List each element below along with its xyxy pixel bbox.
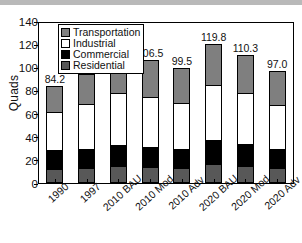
bar-segment-commercial[interactable] bbox=[79, 150, 94, 169]
bar-segment-commercial[interactable] bbox=[206, 141, 221, 165]
stacked-bar-chart: Quads 020406080100120140 84.294.0110.510… bbox=[0, 0, 302, 243]
x-label-slot: 1997 bbox=[70, 186, 102, 243]
bar-segment-transportation[interactable] bbox=[174, 69, 189, 103]
bar-value-label: 119.8 bbox=[201, 31, 227, 43]
stacked-bar[interactable]: 119.8 bbox=[205, 44, 222, 183]
bar-segment-commercial[interactable] bbox=[111, 146, 126, 167]
bar-segment-commercial[interactable] bbox=[270, 150, 285, 169]
bar-segment-commercial[interactable] bbox=[238, 145, 253, 167]
bar-slot: 97.0 bbox=[261, 23, 293, 183]
legend-swatch-icon bbox=[61, 50, 70, 59]
x-tick-mark bbox=[214, 179, 215, 183]
bar-segment-commercial[interactable] bbox=[143, 148, 158, 168]
bar-segment-industrial[interactable] bbox=[174, 103, 189, 150]
legend-label: Residential bbox=[73, 60, 125, 71]
chart-legend: TransportationIndustrialCommercialReside… bbox=[58, 24, 144, 74]
stacked-bar[interactable]: 97.0 bbox=[269, 71, 286, 183]
stacked-bar[interactable]: 106.5 bbox=[142, 60, 159, 183]
bar-segment-transportation[interactable] bbox=[238, 56, 253, 93]
bar-value-label: 84.2 bbox=[45, 73, 65, 85]
stacked-bar[interactable]: 99.5 bbox=[173, 68, 190, 183]
bar-segment-transportation[interactable] bbox=[79, 75, 94, 104]
x-tick-mark bbox=[87, 179, 88, 183]
bar-slot: 119.8 bbox=[198, 23, 230, 183]
bar-segment-industrial[interactable] bbox=[47, 112, 62, 151]
bar-slot: 110.3 bbox=[230, 23, 262, 183]
x-label-slot: 2010 BAU bbox=[102, 186, 134, 243]
x-tick-mark bbox=[182, 179, 183, 183]
bar-segment-industrial[interactable] bbox=[111, 93, 126, 146]
bar-segment-transportation[interactable] bbox=[270, 72, 285, 105]
legend-swatch-icon bbox=[61, 28, 70, 37]
x-label-slot: 2020 BAU bbox=[198, 186, 230, 243]
bar-segment-commercial[interactable] bbox=[47, 151, 62, 169]
bar-segment-transportation[interactable] bbox=[47, 87, 62, 112]
x-tick-mark bbox=[277, 179, 278, 183]
legend-swatch-icon bbox=[61, 61, 70, 70]
x-tick-mark bbox=[55, 179, 56, 183]
x-label-slot: 1990 bbox=[38, 186, 70, 243]
x-label-slot: 2010 Mod bbox=[134, 186, 166, 243]
x-tick-mark bbox=[150, 179, 151, 183]
top-border-band bbox=[0, 0, 302, 5]
bar-segment-industrial[interactable] bbox=[270, 105, 285, 151]
stacked-bar[interactable]: 110.3 bbox=[237, 55, 254, 183]
legend-item[interactable]: Residential bbox=[61, 60, 140, 71]
bar-value-label: 99.5 bbox=[172, 55, 192, 67]
y-axis-ticks: 020406080100120140 bbox=[0, 0, 38, 243]
bar-value-label: 110.3 bbox=[233, 42, 259, 54]
bar-segment-commercial[interactable] bbox=[174, 150, 189, 169]
bar-segment-industrial[interactable] bbox=[206, 85, 221, 142]
x-label-slot: 2020 Adv bbox=[262, 186, 294, 243]
x-tick-mark bbox=[245, 179, 246, 183]
bar-segment-transportation[interactable] bbox=[206, 45, 221, 84]
x-label-slot: 2010 Adv bbox=[166, 186, 198, 243]
stacked-bar[interactable]: 84.2 bbox=[46, 86, 63, 183]
bar-segment-industrial[interactable] bbox=[238, 93, 253, 145]
bar-value-label: 97.0 bbox=[267, 58, 287, 70]
bar-segment-industrial[interactable] bbox=[79, 104, 94, 150]
bar-slot: 99.5 bbox=[166, 23, 198, 183]
x-label-slot: 2020 Mod bbox=[230, 186, 262, 243]
bar-segment-transportation[interactable] bbox=[143, 61, 158, 97]
x-axis-labels: 199019972010 BAU2010 Mod2010 Adv2020 BAU… bbox=[38, 186, 294, 243]
legend-swatch-icon bbox=[61, 39, 70, 48]
stacked-bar[interactable]: 110.5 bbox=[110, 55, 127, 183]
x-tick-mark bbox=[118, 179, 119, 183]
stacked-bar[interactable]: 94.0 bbox=[78, 74, 95, 183]
bar-segment-industrial[interactable] bbox=[143, 97, 158, 148]
